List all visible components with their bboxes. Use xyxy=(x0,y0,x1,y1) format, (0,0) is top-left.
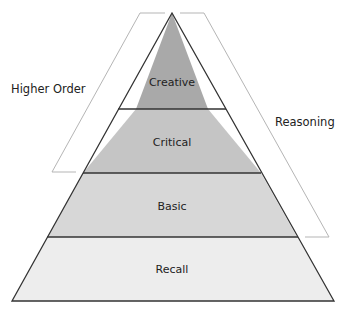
level-label-critical: Critical xyxy=(153,136,191,149)
level-label-recall: Recall xyxy=(156,263,189,276)
higher-order-label: Higher Order xyxy=(11,82,86,96)
pyramid-diagram: Creative Critical Basic Recall Higher Or… xyxy=(0,0,344,315)
reasoning-label: Reasoning xyxy=(275,115,335,129)
level-label-basic: Basic xyxy=(157,200,186,213)
level-label-creative: Creative xyxy=(149,76,195,89)
level-creative xyxy=(136,13,208,109)
